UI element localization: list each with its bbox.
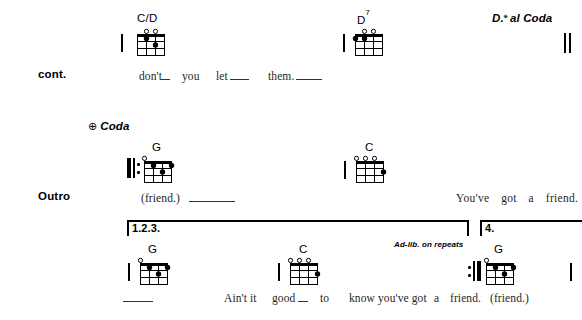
- lyric-know-youve-got: know you've got: [349, 292, 427, 304]
- volta-4-tick: [480, 220, 482, 236]
- repeat-start-thick-system2: [127, 158, 131, 178]
- volta-label-123: 1.2.3.: [132, 222, 160, 234]
- direction-coda: ⊕Coda: [88, 120, 129, 133]
- chord-name-c-outro: C: [365, 141, 374, 153]
- al-coda-text: al Coda: [510, 12, 552, 24]
- lyric-ext-good: [298, 301, 308, 302]
- lyric-friend-paren-2: (friend.): [490, 292, 529, 304]
- barline-system1-end-2: [569, 33, 571, 53]
- barline-system2-b: [344, 161, 346, 179]
- lyric-them: them.: [268, 70, 294, 82]
- chord-name-g-volta4: G: [494, 243, 503, 255]
- volta-123-line: [127, 220, 469, 222]
- volta-label-4: 4.: [485, 222, 494, 234]
- barline-system3-b: [278, 263, 280, 281]
- chord-diagram-g-outro: [140, 155, 176, 189]
- lyric-friend: friend.: [450, 292, 481, 304]
- chord-name-g-outro: G: [152, 141, 161, 153]
- lyric-ext-let: [230, 79, 249, 80]
- repeat-end-thin: [473, 261, 475, 281]
- segno-icon: 𝄌: [504, 13, 507, 24]
- chord-diagram-g-volta123: [136, 257, 172, 291]
- barline-system1-a: [121, 34, 123, 52]
- barline-system3-end: [570, 263, 572, 281]
- lyric-aint-it: Ain't it: [224, 292, 257, 304]
- chord-name-c-volta123: C: [299, 243, 308, 255]
- chord-diagram-d7: [351, 28, 387, 62]
- lyric-ext-dont: [161, 79, 170, 80]
- chord-name-c-over-d: C/D: [137, 12, 157, 24]
- chord-name-g-volta123: G: [148, 243, 157, 255]
- lyric-ext-friend-paren: [189, 201, 235, 202]
- volta-123-tick: [127, 220, 129, 236]
- chord-d-superscript: 7: [366, 8, 370, 17]
- barline-system1-b: [343, 34, 345, 52]
- lyric-dont: don't: [139, 70, 162, 82]
- lyric-let: let: [216, 70, 228, 82]
- repeat-end-dot-lower: [468, 274, 471, 277]
- lyric-to: to: [320, 292, 329, 304]
- section-label-cont: cont.: [38, 68, 66, 80]
- chord-diagram-c-over-d: [133, 28, 169, 62]
- lyric-a: a: [434, 292, 439, 304]
- lyric-you: you: [182, 70, 200, 82]
- repeat-end-thick: [477, 261, 481, 281]
- chord-name-d7: D7: [357, 12, 370, 26]
- coda-icon: ⊕: [88, 120, 97, 133]
- lyric-friend-paren: (friend.): [141, 192, 180, 204]
- barline-system3-a: [128, 263, 130, 281]
- chord-d-root: D: [357, 14, 366, 26]
- lyric-good: good: [272, 292, 295, 304]
- chord-diagram-c-outro: [352, 155, 388, 189]
- lyric-youve-got-a-friend: You've got a friend.: [456, 192, 578, 204]
- volta-4-line: [480, 220, 582, 222]
- chord-diagram-c-volta123: [286, 257, 322, 291]
- coda-word: Coda: [100, 120, 129, 132]
- section-label-outro: Outro: [38, 190, 70, 202]
- repeat-end-dot-upper: [468, 266, 471, 269]
- volta-123-end-tick: [467, 220, 469, 236]
- lyric-ext-them: [296, 79, 322, 80]
- barline-system1-end-1: [564, 33, 566, 53]
- direction-ds-al-coda: D.𝄌 al Coda: [492, 12, 552, 25]
- sheet-music-page: cont. D.𝄌 al Coda C/D D7: [0, 0, 582, 320]
- chord-diagram-g-volta4: [482, 257, 518, 291]
- ds-prefix: D.: [492, 12, 504, 24]
- direction-ad-lib: Ad-lib. on repeats: [394, 240, 463, 249]
- repeat-start-thin-system2: [133, 158, 135, 178]
- lyric-ext-leading: [123, 301, 153, 302]
